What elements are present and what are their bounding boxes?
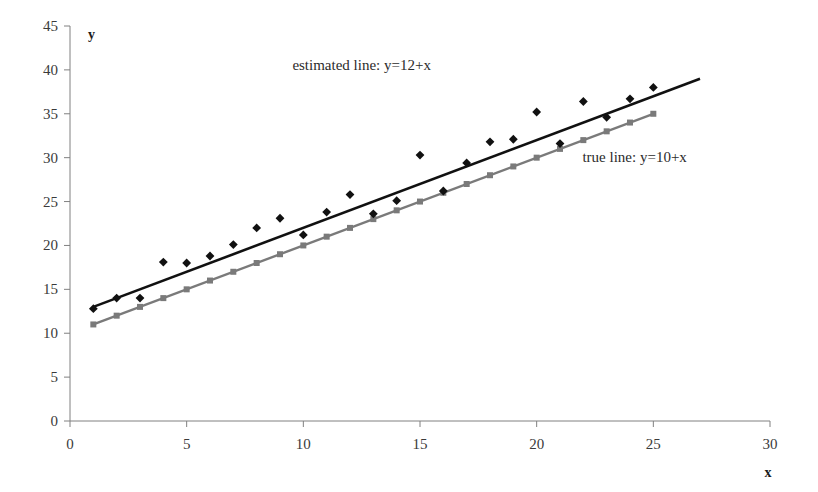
chart-canvas: 051015202530354045 051015202530 estimate… [0, 0, 818, 492]
data-point [206, 252, 215, 261]
data-point [159, 258, 168, 267]
x-tick-label: 5 [183, 436, 191, 452]
data-point [182, 259, 191, 268]
true-line-marker [254, 260, 260, 266]
y-axis-title: y [88, 27, 95, 42]
data-point [346, 190, 355, 199]
y-tick-label: 5 [51, 369, 59, 385]
data-point [136, 294, 145, 303]
true-line-marker [650, 111, 656, 117]
y-tick-label: 45 [43, 18, 58, 34]
true-line-marker [464, 181, 470, 187]
data-point [299, 231, 308, 240]
data-point [626, 94, 635, 103]
true-line-marker [230, 269, 236, 275]
y-tick-label: 30 [43, 150, 58, 166]
x-axis-title: x [765, 465, 772, 480]
true-line-marker [580, 137, 586, 143]
y-tick-label: 20 [43, 237, 58, 253]
y-tick-label: 25 [43, 194, 58, 210]
true-line-marker [137, 304, 143, 310]
x-tick-label: 30 [763, 436, 778, 452]
data-point [112, 294, 121, 303]
y-axis-ticks: 051015202530354045 [43, 18, 70, 429]
data-point [252, 223, 261, 232]
true-line-marker [277, 251, 283, 257]
chart-annotations: estimated line: y=12+xtrue line: y=10+x [292, 57, 687, 165]
scatter-chart: 051015202530354045 051015202530 estimate… [0, 0, 818, 492]
true-line-marker [184, 286, 190, 292]
data-point [649, 83, 658, 92]
estimated-line-series [93, 79, 700, 307]
true-line-marker [300, 242, 306, 248]
annotation-label: true line: y=10+x [582, 149, 687, 165]
x-tick-label: 15 [413, 436, 428, 452]
true-line-marker [510, 163, 516, 169]
data-point [532, 108, 541, 117]
annotation-label: estimated line: y=12+x [292, 57, 431, 73]
true-line-marker [324, 234, 330, 240]
data-point [416, 151, 425, 160]
x-tick-label: 10 [296, 436, 311, 452]
x-tick-label: 0 [66, 436, 74, 452]
x-tick-label: 25 [646, 436, 661, 452]
true-line-marker [160, 295, 166, 301]
true-line-marker [207, 278, 213, 284]
y-tick-label: 40 [43, 62, 58, 78]
x-axis-ticks: 051015202530 [66, 421, 777, 452]
data-point [579, 97, 588, 106]
y-tick-label: 15 [43, 281, 58, 297]
true-line-marker [394, 207, 400, 213]
true-line-marker [604, 128, 610, 134]
data-point [509, 135, 518, 144]
observed-data-points [89, 83, 658, 313]
true-line-marker [347, 225, 353, 231]
x-tick-label: 20 [529, 436, 544, 452]
true-line-marker [487, 172, 493, 178]
data-point [322, 208, 331, 217]
true-line-series [90, 111, 656, 328]
y-tick-label: 0 [51, 413, 59, 429]
true-line-marker [90, 321, 96, 327]
data-point [392, 196, 401, 205]
y-tick-label: 35 [43, 106, 58, 122]
y-tick-label: 10 [43, 325, 58, 341]
data-point [486, 137, 495, 146]
data-point [229, 240, 238, 249]
true-line-marker [417, 199, 423, 205]
true-line-marker [627, 120, 633, 126]
true-line-marker [114, 313, 120, 319]
data-point [276, 214, 285, 223]
true-line-marker [534, 155, 540, 161]
